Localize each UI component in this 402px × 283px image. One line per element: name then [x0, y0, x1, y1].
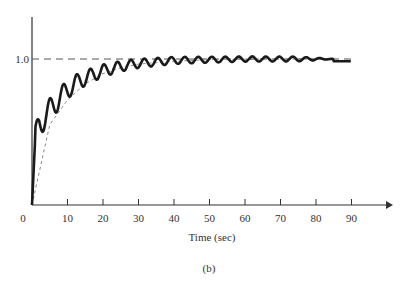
y-tick-label: 1.0: [15, 53, 29, 65]
x-tick-label: 60: [240, 212, 252, 224]
x-tick-label: 0: [20, 212, 26, 224]
x-tick-label: 30: [133, 212, 145, 224]
x-axis-arrow-icon: [386, 201, 393, 209]
x-tick-label: 20: [98, 212, 110, 224]
x-axis-label: Time (sec): [189, 231, 236, 244]
x-tick-label: 40: [169, 212, 181, 224]
x-axis-ticks: 0102030405060708090: [20, 199, 357, 224]
axes: [32, 17, 393, 209]
figure-caption: (b): [203, 262, 216, 275]
x-tick-label: 50: [204, 212, 216, 224]
x-tick-label: 70: [275, 212, 287, 224]
step-response-chart: 0102030405060708090 1.0 Time (sec) (b): [0, 0, 402, 283]
x-tick-label: 80: [311, 212, 323, 224]
oscillatory-response-curve: [32, 56, 351, 205]
x-tick-label: 90: [346, 212, 358, 224]
x-tick-label: 10: [62, 212, 74, 224]
smooth-response-curve: [32, 59, 334, 205]
